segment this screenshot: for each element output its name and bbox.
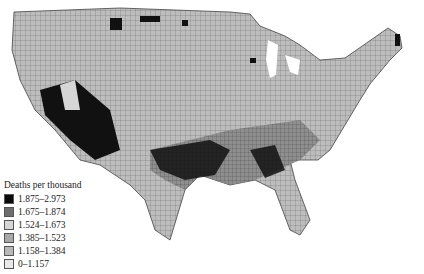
- legend-swatch: [4, 246, 14, 256]
- legend-title: Deaths per thousand: [4, 180, 82, 190]
- legend-item: 1.524–1.673: [4, 218, 82, 231]
- map-legend: Deaths per thousand 1.875–2.973 1.675–1.…: [4, 180, 82, 270]
- legend-item: 1.675–1.874: [4, 205, 82, 218]
- legend-swatch: [4, 220, 14, 230]
- legend-item: 1.385–1.523: [4, 231, 82, 244]
- legend-item: 1.158–1.384: [4, 244, 82, 257]
- legend-item: 1.875–2.973: [4, 192, 82, 205]
- legend-swatch: [4, 259, 14, 269]
- legend-swatch: [4, 194, 14, 204]
- legend-swatch: [4, 233, 14, 243]
- legend-item: 0–1.157: [4, 257, 82, 270]
- legend-swatch: [4, 207, 14, 217]
